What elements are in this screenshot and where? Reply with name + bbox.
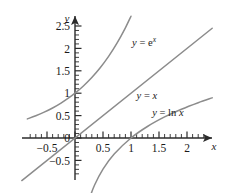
x-tick-label: 1 — [128, 142, 134, 154]
x-tick-label: 1.5 — [152, 142, 167, 154]
x-axis-label: x — [211, 140, 217, 152]
plot-area: −0.50.511.52 2.521.510.50−0.5 x y y = ex… — [0, 0, 232, 193]
curve-label-exponential: y = ex — [131, 35, 157, 48]
y-tick-label: 1 — [64, 87, 70, 99]
curve-exponential — [27, 16, 131, 119]
y-tick-label: −0.5 — [49, 155, 70, 167]
x-tick-labels: −0.50.511.52 — [37, 142, 191, 154]
y-tick-label: 0.5 — [56, 110, 71, 122]
x-tick-label: −0.5 — [37, 142, 58, 154]
curve-label-logarithm: y = ln x — [151, 107, 184, 118]
curve-label-identity: y = x — [136, 90, 158, 101]
y-tick-label: 0 — [64, 132, 70, 144]
x-tick-label: 0.5 — [96, 142, 111, 154]
y-axis-label: y — [64, 12, 70, 24]
function-graph-figure: −0.50.511.52 2.521.510.50−0.5 x y y = ex… — [0, 0, 232, 193]
y-tick-label: 1.5 — [56, 65, 71, 77]
x-tick-label: 2 — [184, 142, 190, 154]
y-tick-label: 2 — [64, 43, 70, 55]
